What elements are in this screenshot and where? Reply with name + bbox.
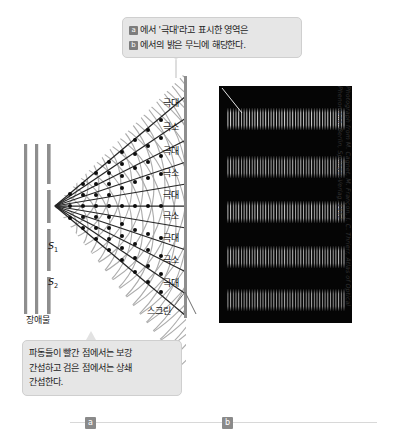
callout-leader-line	[160, 58, 250, 118]
fringe-label-5: 극소	[163, 209, 179, 222]
screen-label: 스크린	[147, 304, 171, 317]
interference-pattern-photograph	[219, 86, 352, 323]
callout-top-line2: 에서의 밝은 무늬에 해당한다.	[140, 39, 246, 50]
fringe-label-6: 극대	[163, 231, 179, 244]
fringe-label-1: 극소	[163, 120, 179, 133]
barrier-label: 장애물	[26, 313, 50, 326]
slit-label-s2: S2	[48, 276, 58, 290]
photo-credit: Photograph from M. Cagnet, M. Françon, J…	[338, 86, 352, 323]
photo-fringe-3	[227, 201, 345, 223]
fringe-label-3: 극소	[163, 166, 179, 179]
callout-bottom-line2: 간섭하고 검은 점에서는 상쇄	[29, 361, 174, 376]
section-badge-a: a	[85, 417, 96, 429]
fringe-label-7: 극소	[163, 253, 179, 266]
section-marker-b: b	[222, 417, 332, 429]
badge-b-inline: b	[129, 41, 138, 50]
callout-top-line1: 에서 '극대'라고 표시한 영역은	[140, 24, 248, 35]
fringe-label-4: 극대	[163, 188, 179, 201]
badge-a-inline: a	[129, 26, 138, 35]
photo-fringe-2	[227, 156, 345, 178]
callout-bottom-line3: 간섭한다.	[29, 375, 174, 390]
callout-maxima-explanation: a에서 '극대'라고 표시한 영역은 b에서의 밝은 무늬에 해당한다.	[122, 17, 302, 58]
figure-root: S1 S2 장애물 스크린 극대극소극대극소극대극소극대극소극대 Photogr…	[0, 0, 398, 440]
section-marker-a: a	[85, 417, 195, 429]
section-badge-b: b	[222, 417, 233, 429]
barrier	[24, 144, 51, 314]
fringe-label-2: 극대	[163, 144, 179, 157]
fringe-label-8: 극대	[163, 276, 179, 289]
callout-interference-explanation: 파동들이 빨간 점에서는 보강 간섭하고 검은 점에서는 상쇄 간섭한다.	[22, 340, 182, 396]
callout-bottom-tail	[86, 331, 96, 340]
callout-bottom-line1: 파동들이 빨간 점에서는 보강	[29, 346, 174, 361]
photo-fringe-4	[227, 246, 345, 268]
photo-fringe-5	[227, 289, 345, 311]
slit-label-s1: S1	[48, 240, 58, 254]
